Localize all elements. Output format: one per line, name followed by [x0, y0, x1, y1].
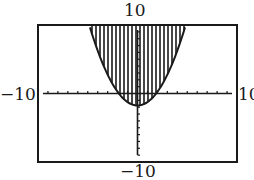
- graph-plot: [0, 0, 254, 180]
